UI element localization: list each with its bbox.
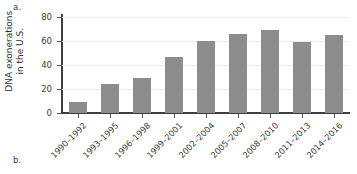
y-tick-label: 0 [12,109,52,118]
x-tick-mark [110,114,111,118]
x-tick-mark [174,114,175,118]
bar [293,42,311,113]
y-tick-label: 80 [12,13,52,22]
bar [165,57,183,113]
y-tick-mark [57,89,61,90]
x-tick-mark [206,114,207,118]
y-tick-mark [57,17,61,18]
x-tick-mark [142,114,143,118]
figure-panel-a: a. b. DNA exonerations in the U.S. 02040… [0,0,357,174]
x-tick-mark [302,114,303,118]
bar [101,84,119,113]
bar [229,34,247,113]
x-tick-mark [238,114,239,118]
x-tick-mark [270,114,271,118]
plot-area [62,17,350,113]
bar [325,35,343,113]
x-tick-mark [334,114,335,118]
gridline [62,17,350,18]
bar [69,102,87,113]
y-tick-mark [57,65,61,66]
y-tick-label: 40 [12,61,52,70]
panel-letter-b: b. [13,155,22,165]
x-tick-mark [78,114,79,118]
bar [197,41,215,113]
bar [133,78,151,113]
y-tick-label: 60 [12,37,52,46]
y-tick-mark [57,41,61,42]
bar [261,30,279,113]
y-tick-mark [57,113,61,114]
y-tick-label: 20 [12,85,52,94]
